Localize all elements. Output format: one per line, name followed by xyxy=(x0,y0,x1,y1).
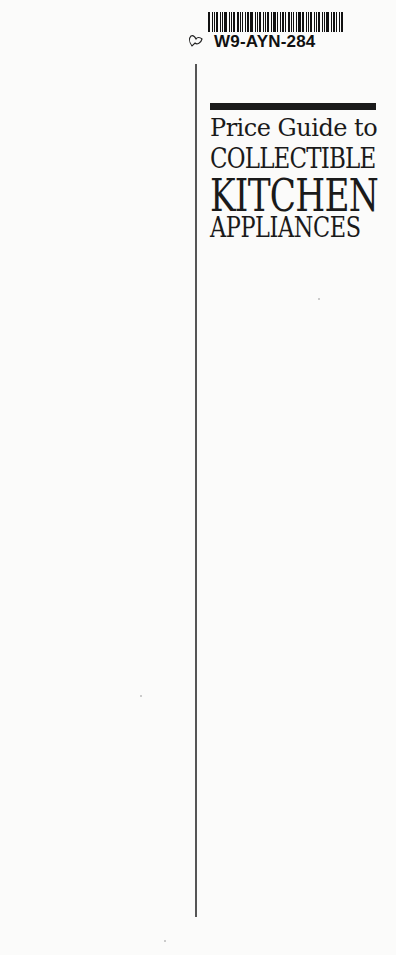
vertical-rule xyxy=(195,64,197,917)
paper-speck xyxy=(140,695,142,697)
paper-speck xyxy=(164,940,166,942)
heart-outline-icon xyxy=(188,33,204,49)
barcode xyxy=(208,12,358,32)
title-line-4: APPLIANCES xyxy=(210,211,361,244)
title-line-1: Price Guide to xyxy=(210,114,377,142)
title-bar-decoration xyxy=(210,103,376,110)
paper-speck xyxy=(318,298,320,300)
library-sticker-code: W9-AYN-284 xyxy=(214,32,316,52)
